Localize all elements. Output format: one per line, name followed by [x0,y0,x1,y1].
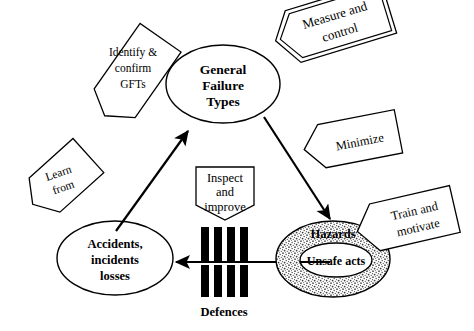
inspect-and-improve-label-line2: and [216,185,235,199]
general-failure-types-label-line3: Types [206,94,240,109]
defence-bar [227,227,235,261]
defences-bars-top [201,227,248,261]
tag-inspect-and-improve[interactable]: Inspect and improve [196,167,254,220]
defences-bars-bottom [201,265,248,297]
accidents-label-line1: Accidents, [87,237,142,251]
defence-bar [240,265,248,297]
identify-confirm-gfts-label-line2: confirm [115,62,151,74]
tag-measure-and-control[interactable]: Measure and control [268,0,397,68]
tag-identify-confirm-gfts[interactable]: Identify & confirm GFTs [75,16,183,132]
unsafe-acts-label: Unsafe acts [307,254,366,268]
defences-group[interactable]: Defences [200,227,248,319]
defences-label: Defences [200,305,247,319]
defence-bar [227,265,235,297]
inspect-and-improve-label-line1: Inspect [207,171,244,185]
tag-minimize[interactable]: Minimize [300,110,403,172]
accidents-label-line3: losses [100,269,130,283]
identify-confirm-gfts-label-line1: Identify & [109,46,157,59]
learn-from-shape[interactable] [18,138,104,222]
defence-bar [214,227,222,261]
diagram-canvas: General Failure Types Accidents, inciden… [0,0,474,331]
arrow-accidents-to-gft [116,131,188,231]
tag-learn-from[interactable]: Learn from [18,138,104,222]
inspect-and-improve-label-line3: improve [204,200,246,214]
node-accidents-incidents-losses[interactable]: Accidents, incidents losses [57,221,173,295]
general-failure-types-label-line2: Failure [202,78,244,93]
node-general-failure-types[interactable]: General Failure Types [166,45,280,123]
defence-bar [240,227,248,261]
accidents-label-line2: incidents [91,253,139,267]
hazards-label: Hazards [310,227,355,241]
defence-bar [201,265,209,297]
defence-bar [214,265,222,297]
safety-cycle-diagram: General Failure Types Accidents, inciden… [0,0,474,331]
defence-bar [201,227,209,261]
general-failure-types-label-line1: General [200,62,247,77]
identify-confirm-gfts-label-line3: GFTs [120,78,146,90]
